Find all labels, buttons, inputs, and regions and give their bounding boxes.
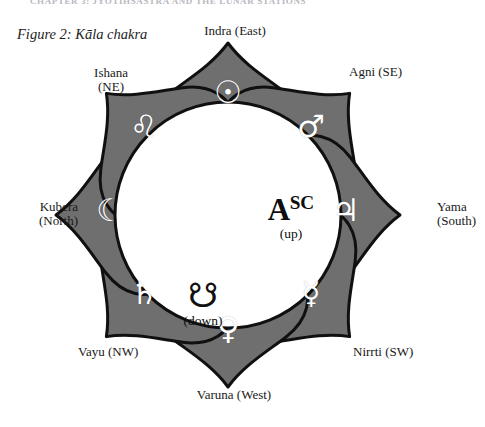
label-kubera-north-line1: Kubera: [39, 200, 78, 214]
label-kubera-north: Kubera (North): [39, 200, 78, 228]
label-yama-south: Yama (South): [437, 200, 476, 228]
label-nirrti-sw: Nirrti (SW): [353, 345, 413, 359]
label-agni-se: Agni (SE): [349, 65, 402, 79]
label-kubera-north-line2: (North): [39, 214, 78, 228]
descending-lunar-node-ketu-icon: ☋: [148, 278, 258, 312]
sun-symbol: ☉: [201, 77, 255, 108]
running-header: CHAPTER 3: JYOTIHSASTRA AND THE LUNAR ST…: [30, 0, 450, 5]
leo-symbol: ♌: [117, 111, 171, 142]
label-yama-south-line1: Yama: [437, 200, 476, 214]
label-vayu-nw: Vayu (NW): [78, 345, 138, 359]
moon-symbol: ☾: [83, 195, 137, 226]
ascendant-superscript: SC: [290, 192, 315, 213]
descending-node-note: (down): [148, 313, 258, 329]
label-ishana-ne-line2: (NE): [94, 80, 128, 94]
ascendant-group: ASC (up): [243, 193, 339, 242]
label-indra-east: Indra (East): [204, 24, 266, 38]
label-ishana-ne: Ishana (NE): [94, 66, 128, 94]
ascendant-note: (up): [243, 226, 339, 242]
label-yama-south-line2: (South): [437, 214, 476, 228]
mercury-symbol: ☿: [284, 278, 338, 309]
label-ishana-ne-line1: Ishana: [94, 66, 128, 80]
label-varuna-west: Varuna (West): [197, 388, 271, 402]
mars-symbol: ♂: [284, 111, 338, 142]
descending-node-group: ☋ (down): [148, 278, 258, 329]
ascendant-letter: A: [268, 192, 290, 227]
ascendant-label: ASC: [243, 193, 339, 225]
